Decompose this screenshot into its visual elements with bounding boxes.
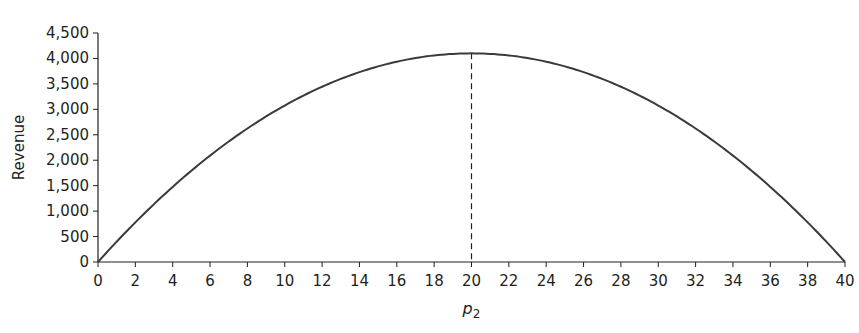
x-tick-label: 28 (611, 272, 630, 290)
x-tick-label: 34 (723, 272, 742, 290)
x-tick-label: 22 (499, 272, 518, 290)
y-tick-label: 2,500 (46, 126, 89, 144)
x-axis-label: p2 (462, 299, 481, 321)
chart-container: 05001,0001,5002,0002,5003,0003,5004,0004… (0, 0, 859, 333)
x-tick-label: 12 (313, 272, 332, 290)
x-tick-label: 14 (350, 272, 369, 290)
y-tick-label: 1,500 (46, 177, 89, 195)
x-tick-label: 32 (686, 272, 705, 290)
y-tick-label: 500 (60, 228, 89, 246)
x-tick-label: 0 (93, 272, 103, 290)
x-tick-label: 8 (243, 272, 253, 290)
x-tick-label: 18 (425, 272, 444, 290)
y-axis-label: Revenue (10, 115, 28, 180)
x-tick-label: 10 (275, 272, 294, 290)
x-tick-label: 20 (462, 272, 481, 290)
x-tick-label: 36 (761, 272, 780, 290)
y-tick-label: 2,000 (46, 151, 89, 169)
y-tick-label: 0 (79, 253, 89, 271)
y-tick-label: 3,000 (46, 100, 89, 118)
x-tick-label: 24 (537, 272, 556, 290)
y-tick-label: 3,500 (46, 75, 89, 93)
y-tick-label: 1,000 (46, 202, 89, 220)
x-tick-label: 30 (649, 272, 668, 290)
revenue-chart: 05001,0001,5002,0002,5003,0003,5004,0004… (0, 0, 859, 333)
y-tick-label: 4,000 (46, 49, 89, 67)
x-tick-label: 26 (574, 272, 593, 290)
x-tick-label: 2 (131, 272, 141, 290)
x-tick-label: 6 (205, 272, 215, 290)
y-tick-label: 4,500 (46, 24, 89, 42)
x-tick-label: 4 (168, 272, 178, 290)
x-tick-label: 16 (387, 272, 406, 290)
x-tick-label: 40 (835, 272, 854, 290)
x-tick-label: 38 (798, 272, 817, 290)
